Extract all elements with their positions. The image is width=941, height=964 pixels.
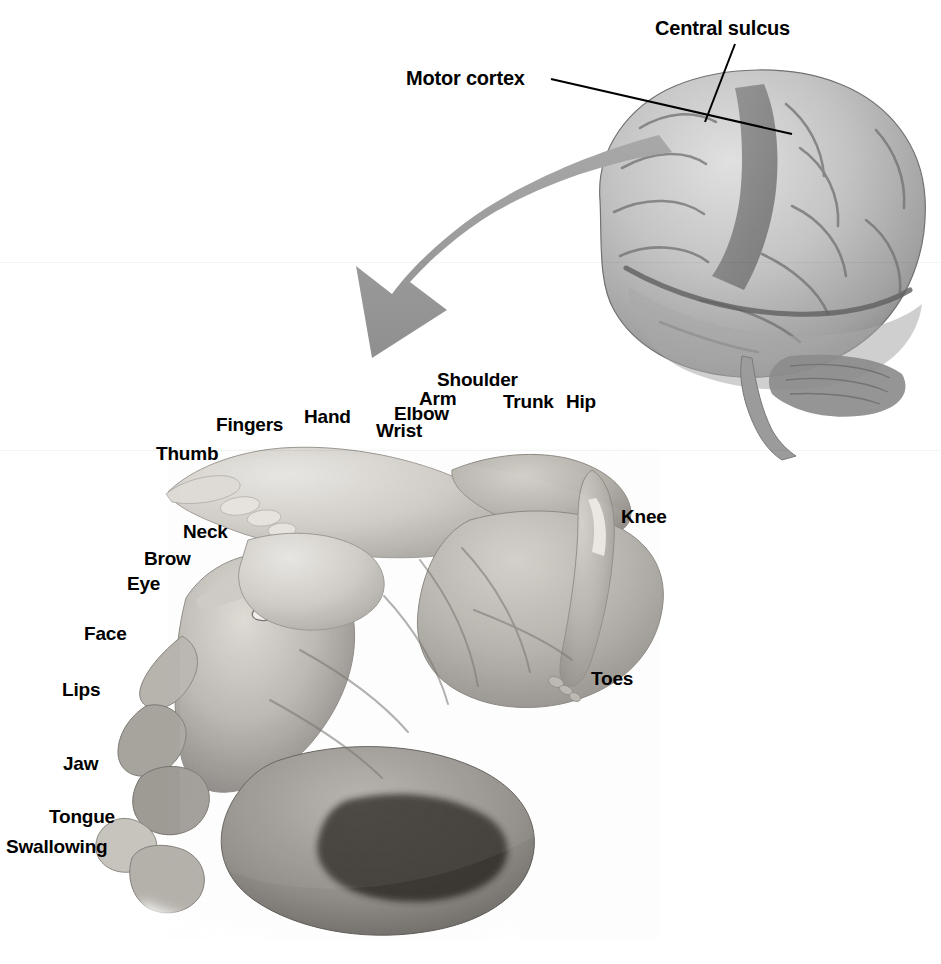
brain-illustration	[600, 70, 926, 460]
label-toes: Toes	[591, 669, 633, 688]
label-central-sulcus: Central sulcus	[655, 18, 790, 38]
label-lips: Lips	[62, 680, 100, 699]
label-wrist: Wrist	[376, 421, 422, 440]
label-motor-cortex: Motor cortex	[406, 68, 525, 88]
scan-artifact-line-lower	[0, 262, 941, 263]
label-swallowing: Swallowing	[6, 837, 107, 856]
artwork-layer	[0, 0, 941, 964]
leader-line-motor-cortex	[551, 79, 792, 134]
homunculus-figure: Central sulcus Motor cortex Shoulder Arm…	[0, 0, 941, 964]
label-shoulder: Shoulder	[437, 370, 518, 389]
label-face: Face	[84, 624, 127, 643]
scan-artifact-line-upper	[0, 450, 941, 451]
magnify-arrow	[356, 135, 672, 358]
label-brow: Brow	[144, 549, 191, 568]
label-hand: Hand	[304, 407, 351, 426]
label-thumb: Thumb	[156, 444, 218, 463]
label-hip: Hip	[566, 392, 596, 411]
label-neck: Neck	[183, 522, 228, 541]
label-eye: Eye	[127, 574, 160, 593]
leader-lines	[551, 44, 792, 134]
label-jaw: Jaw	[63, 754, 98, 773]
label-fingers: Fingers	[216, 415, 283, 434]
label-tongue: Tongue	[49, 807, 115, 826]
leader-line-central-sulcus	[705, 44, 735, 122]
label-knee: Knee	[621, 507, 667, 526]
label-trunk: Trunk	[503, 392, 554, 411]
